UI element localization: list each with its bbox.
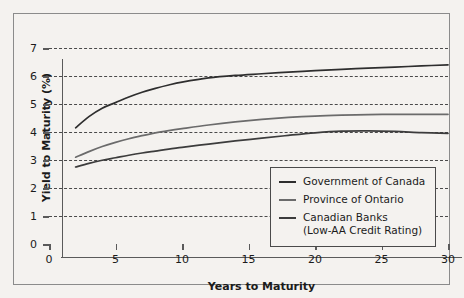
figure-frame: Yield to Maturity (%) Years to Maturity …	[13, 13, 450, 285]
legend-label-wrap-0: Government of Canada	[303, 175, 425, 188]
chart-legend: Government of CanadaProvince of OntarioC…	[270, 167, 436, 247]
legend-label-2: Canadian Banks	[303, 211, 422, 224]
legend-label-1: Province of Ontario	[303, 193, 404, 206]
legend-item-2: Canadian Banks(Low-AA Credit Rating)	[279, 211, 435, 237]
legend-swatch-icon-2	[279, 217, 296, 219]
series-line-province-of-ontario	[76, 114, 448, 157]
series-line-canadian-banks	[76, 131, 448, 167]
chart-figure: Yield to Maturity (%) Years to Maturity …	[0, 0, 464, 298]
legend-label-wrap-2: Canadian Banks(Low-AA Credit Rating)	[303, 211, 422, 237]
legend-sublabel-2: (Low-AA Credit Rating)	[303, 224, 422, 237]
legend-swatch-icon-1	[279, 199, 296, 201]
legend-swatch-icon-0	[279, 181, 296, 183]
legend-label-wrap-1: Province of Ontario	[303, 193, 404, 206]
series-line-government-of-canada	[76, 65, 448, 128]
legend-item-0: Government of Canada	[279, 175, 435, 188]
legend-item-1: Province of Ontario	[279, 193, 435, 206]
legend-label-0: Government of Canada	[303, 175, 425, 188]
